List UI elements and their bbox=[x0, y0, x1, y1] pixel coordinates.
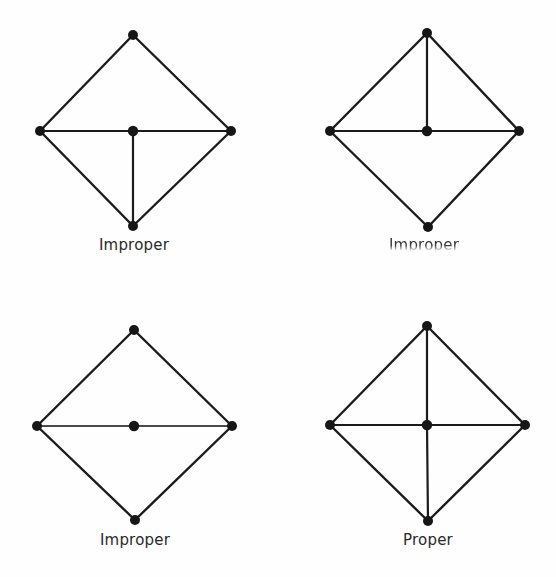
edge-top-left bbox=[330, 326, 427, 425]
panel-bottom-left bbox=[32, 325, 237, 525]
vertex-top bbox=[422, 321, 432, 331]
panel-label-bottom-left: Improper bbox=[45, 531, 225, 549]
edge-top-left bbox=[37, 330, 134, 426]
edge-left-bottom bbox=[40, 131, 133, 226]
edge-right-top bbox=[133, 35, 231, 131]
edge-bottom-right bbox=[428, 131, 519, 227]
panel-label-bottom-right: Proper bbox=[338, 531, 518, 549]
edge-right-top bbox=[427, 326, 525, 425]
vertex-right bbox=[227, 421, 237, 431]
vertex-top bbox=[422, 28, 432, 38]
vertex-left bbox=[32, 421, 42, 431]
panel-top-right bbox=[325, 28, 524, 232]
edge-top-left bbox=[40, 35, 133, 131]
edge-bottom-right bbox=[428, 425, 525, 521]
vertex-top bbox=[128, 30, 138, 40]
vertex-center bbox=[422, 126, 432, 136]
vertex-bottom bbox=[130, 515, 140, 525]
edge-bottom-right bbox=[135, 426, 232, 520]
vertex-left bbox=[325, 420, 335, 430]
interior-edge-center-bottom bbox=[427, 425, 428, 521]
panel-label-top-left: Improper bbox=[44, 236, 224, 254]
vertex-center bbox=[128, 126, 138, 136]
edge-left-bottom bbox=[330, 131, 428, 227]
edge-bottom-right bbox=[133, 131, 231, 226]
vertex-top bbox=[129, 325, 139, 335]
vertex-bottom bbox=[423, 516, 433, 526]
edge-right-top bbox=[134, 330, 232, 426]
vertex-right bbox=[520, 420, 530, 430]
vertex-right bbox=[226, 126, 236, 136]
panel-bottom-right bbox=[325, 321, 530, 526]
vertex-bottom bbox=[423, 222, 433, 232]
edge-top-left bbox=[330, 33, 427, 131]
vertex-center bbox=[422, 420, 432, 430]
vertex-right bbox=[514, 126, 524, 136]
vertex-center bbox=[129, 421, 139, 431]
edge-left-bottom bbox=[330, 425, 428, 521]
vertex-left bbox=[35, 126, 45, 136]
quadrilateral-mesh-figure: Improper Improper Improper Proper bbox=[0, 0, 556, 577]
figure-canvas bbox=[0, 0, 556, 577]
vertex-bottom bbox=[128, 221, 138, 231]
vertex-left bbox=[325, 126, 335, 136]
panel-top-left bbox=[35, 30, 236, 231]
edge-left-bottom bbox=[37, 426, 135, 520]
panel-label-top-right: Improper bbox=[334, 236, 514, 254]
edge-right-top bbox=[427, 33, 519, 131]
